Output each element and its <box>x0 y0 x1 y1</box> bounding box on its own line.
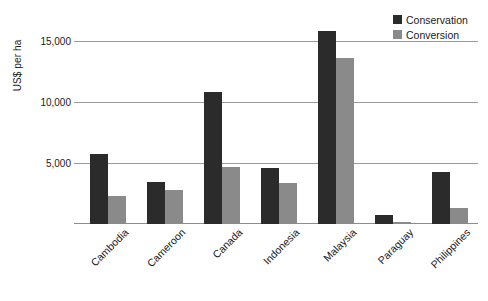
x-axis-label: Cameroon <box>145 226 188 269</box>
bar <box>336 58 354 224</box>
bar <box>279 183 297 225</box>
bar-group <box>261 14 297 224</box>
bar <box>222 167 240 224</box>
legend-label: Conservation <box>406 14 468 26</box>
bar-group <box>204 14 240 224</box>
bar <box>432 172 450 224</box>
chart-legend: ConservationConversion <box>393 12 468 42</box>
bar-group <box>318 14 354 224</box>
bar <box>393 222 411 224</box>
x-axis-label: Indonesia <box>261 226 302 267</box>
bar <box>108 196 126 224</box>
x-axis-label: Cambodia <box>89 226 131 268</box>
x-axis-label: Canada <box>210 226 244 260</box>
legend-label: Conversion <box>406 29 459 41</box>
y-axis-tick-label: 10,000 <box>40 96 71 107</box>
x-axis-label: Malaysia <box>321 226 359 264</box>
bar <box>375 215 393 224</box>
y-axis-title: US$ per ha <box>12 18 23 114</box>
bar <box>204 92 222 224</box>
plot-area: 5,00010,00015,000 <box>80 14 478 224</box>
legend-swatch <box>393 15 402 24</box>
x-axis-label: Philippines <box>428 226 472 270</box>
bar-chart: US$ per ha 5,00010,00015,000 CambodiaCam… <box>0 0 488 301</box>
bar-group <box>432 14 468 224</box>
bar <box>450 208 468 224</box>
bar-group <box>375 14 411 224</box>
bar-groups <box>80 14 478 224</box>
legend-item: Conversion <box>393 27 468 42</box>
y-axis-tick-label: 15,000 <box>40 35 71 46</box>
bar-group <box>147 14 183 224</box>
bar <box>90 154 108 224</box>
bar <box>318 31 336 224</box>
y-axis-tick-label: 5,000 <box>46 157 71 168</box>
bar-group <box>90 14 126 224</box>
bar <box>261 168 279 224</box>
legend-item: Conservation <box>393 12 468 27</box>
x-axis-labels: CambodiaCameroonCanadaIndonesiaMalaysiaP… <box>80 226 478 301</box>
bar <box>147 182 165 224</box>
x-axis-label: Paraguay <box>375 226 415 266</box>
legend-swatch <box>393 30 402 39</box>
bar <box>165 190 183 224</box>
